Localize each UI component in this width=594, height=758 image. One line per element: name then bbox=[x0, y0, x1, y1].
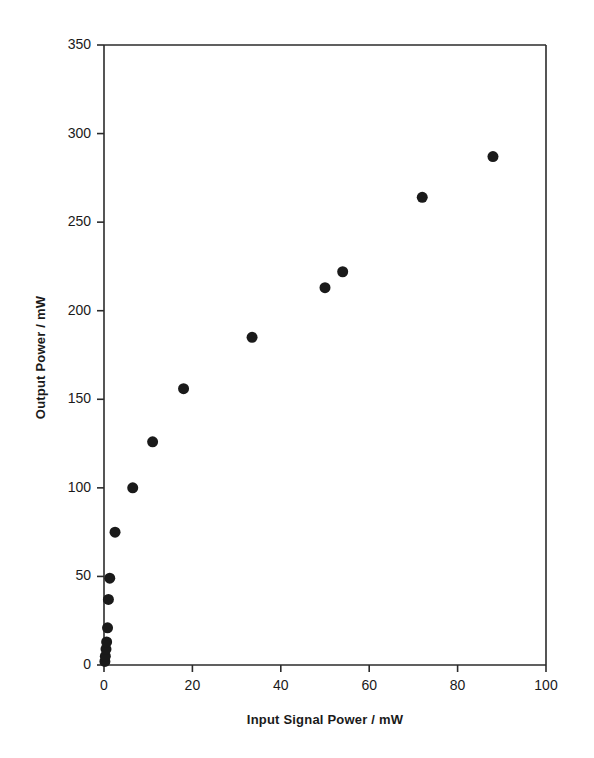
x-tick-label: 40 bbox=[256, 677, 306, 693]
data-point bbox=[103, 594, 114, 605]
y-tick-label: 50 bbox=[47, 567, 91, 583]
y-axis-title: Output Power / mW bbox=[33, 228, 48, 488]
data-point bbox=[247, 332, 258, 343]
x-tick-label: 60 bbox=[344, 677, 394, 693]
x-tick-label: 20 bbox=[167, 677, 217, 693]
data-point bbox=[487, 151, 498, 162]
data-point bbox=[178, 383, 189, 394]
y-tick-label: 0 bbox=[47, 656, 91, 672]
data-point bbox=[101, 636, 112, 647]
y-tick-label: 250 bbox=[47, 213, 91, 229]
y-tick-label: 300 bbox=[47, 125, 91, 141]
data-point bbox=[127, 482, 138, 493]
y-tick-label: 200 bbox=[47, 302, 91, 318]
y-tick-label: 150 bbox=[47, 390, 91, 406]
data-point bbox=[104, 573, 115, 584]
y-tick-label: 100 bbox=[47, 479, 91, 495]
data-point bbox=[320, 282, 331, 293]
x-tick-label: 80 bbox=[433, 677, 483, 693]
data-point bbox=[417, 192, 428, 203]
x-tick-label: 0 bbox=[79, 677, 129, 693]
data-point-group bbox=[99, 151, 498, 667]
data-point bbox=[102, 622, 113, 633]
y-axis-ticks bbox=[97, 45, 104, 665]
y-tick-label: 350 bbox=[47, 36, 91, 52]
x-axis-ticks bbox=[104, 665, 546, 672]
plot-frame bbox=[104, 45, 546, 665]
data-point bbox=[147, 436, 158, 447]
scatter-plot-canvas bbox=[0, 0, 594, 758]
chart-figure: 050100150200250300350 020406080100 Input… bbox=[0, 0, 594, 758]
x-tick-label: 100 bbox=[521, 677, 571, 693]
data-point bbox=[110, 527, 121, 538]
data-point bbox=[337, 266, 348, 277]
x-axis-title: Input Signal Power / mW bbox=[104, 712, 546, 727]
